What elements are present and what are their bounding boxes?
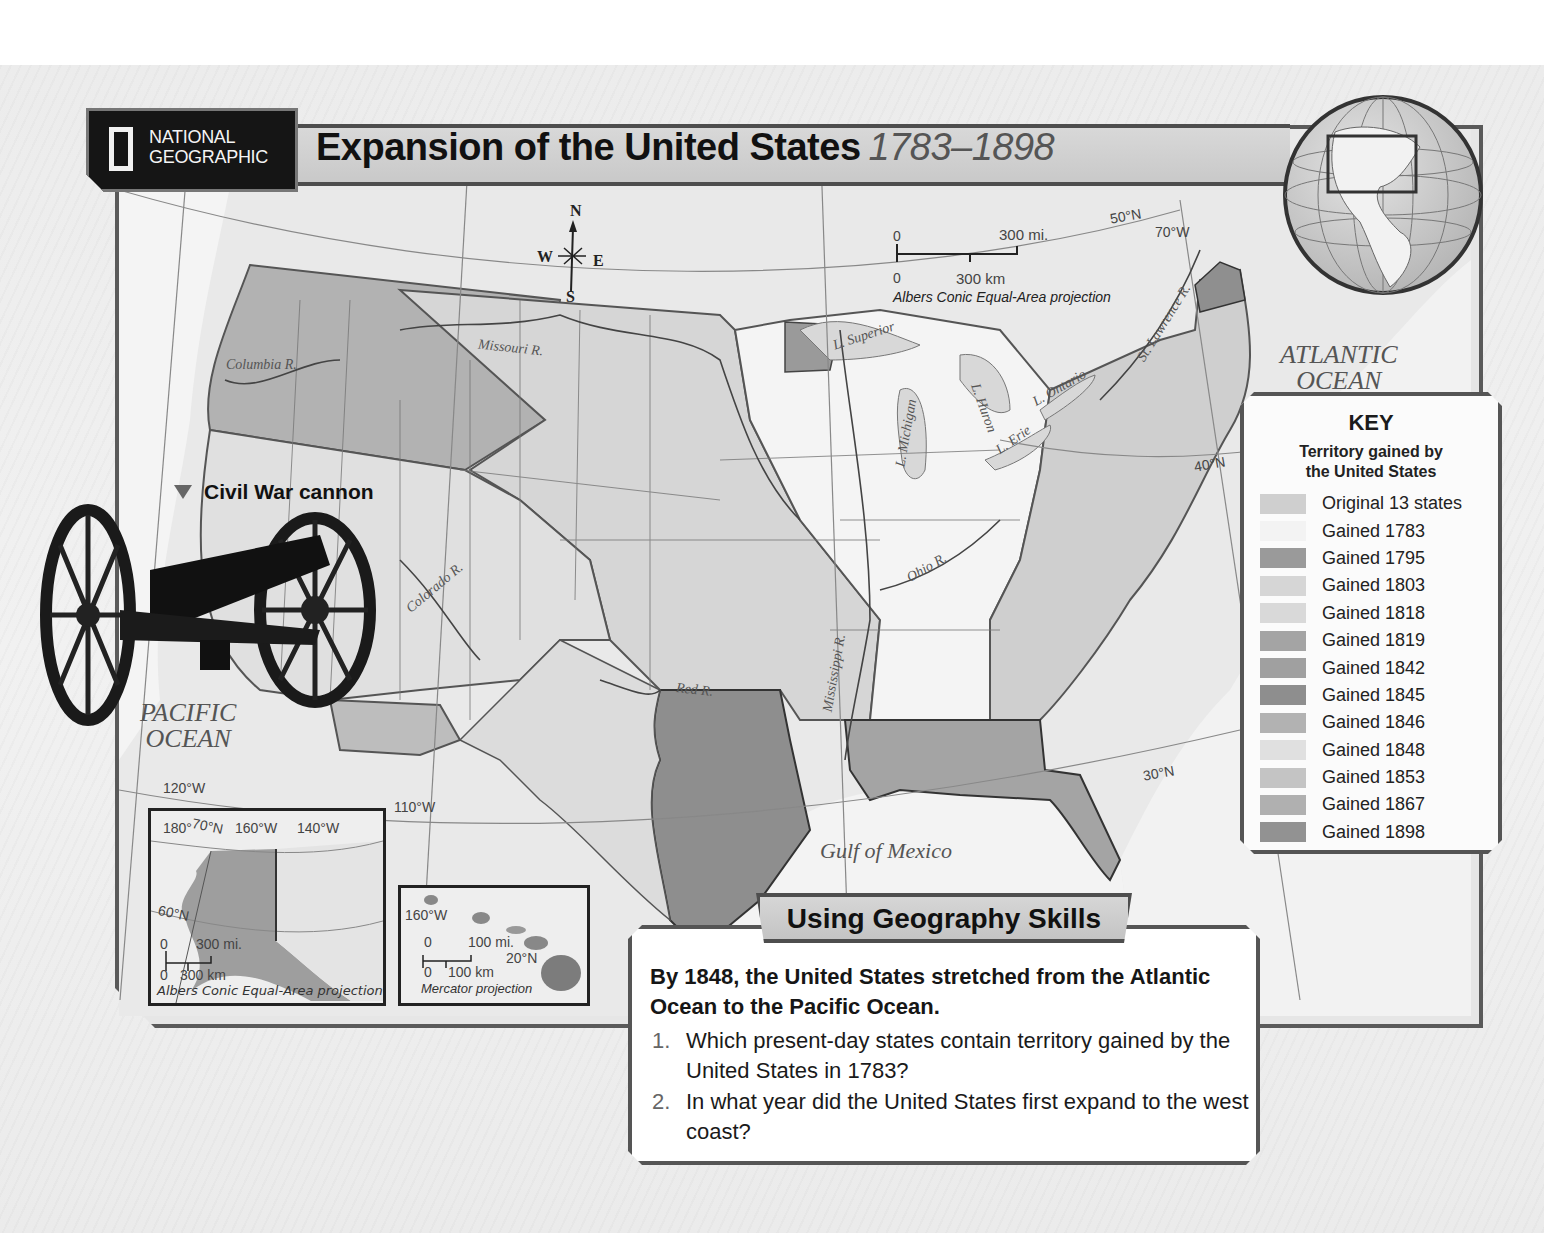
- key-item: Gained 1898: [1244, 819, 1498, 846]
- color-swatch: [1260, 494, 1306, 514]
- inset-alaska-mi-label: 300 mi.: [196, 936, 242, 952]
- lon-120-label: 120°W: [163, 780, 205, 796]
- color-swatch: [1260, 658, 1306, 678]
- inset-alaska-lon-140: 140°W: [297, 820, 339, 836]
- key-item: Gained 1818: [1244, 600, 1498, 627]
- inset-hawaii-mi-zero: 0: [424, 934, 432, 950]
- key-item: Gained 1842: [1244, 654, 1498, 681]
- scale-mi-label: 300 mi.: [999, 226, 1048, 243]
- key-item: Gained 1845: [1244, 682, 1498, 709]
- key-item: Gained 1795: [1244, 545, 1498, 572]
- civil-war-cannon-photo: [40, 500, 385, 735]
- key-item: Gained 1819: [1244, 627, 1498, 654]
- atlantic-ocean-label: ATLANTIC OCEAN: [1280, 342, 1398, 394]
- key-item: Gained 1848: [1244, 737, 1498, 764]
- color-swatch: [1260, 795, 1306, 815]
- inset-alaska-lon-180: 180°: [163, 820, 192, 836]
- lon-110-label: 110°W: [394, 799, 435, 815]
- inset-alaska-lon-160: 160°W: [235, 820, 277, 836]
- compass-e: E: [593, 252, 604, 270]
- key-item: Gained 1803: [1244, 572, 1498, 599]
- scale-projection: Albers Conic Equal-Area projection: [893, 289, 1111, 305]
- scale-mi-zero: 0: [893, 228, 901, 244]
- key-item: Original 13 states: [1244, 490, 1498, 517]
- publisher-name: NATIONAL GEOGRAPHIC: [149, 127, 268, 167]
- yellow-border-icon: [109, 127, 133, 171]
- scale-km-label: 300 km: [956, 270, 1005, 287]
- columbia-river-label: Columbia R.: [226, 357, 297, 373]
- inset-alaska-projection: Albers Conic Equal-Area projection: [157, 983, 383, 998]
- inset-alaska-km-label: 300 km: [180, 967, 226, 983]
- national-geographic-logo: NATIONAL GEOGRAPHIC: [86, 108, 298, 192]
- inset-hawaii-km-zero: 0: [424, 964, 432, 980]
- color-swatch: [1260, 548, 1306, 568]
- color-swatch: [1260, 822, 1306, 842]
- color-swatch: [1260, 740, 1306, 760]
- geography-skills-tab: Using Geography Skills: [756, 893, 1132, 943]
- pointer-triangle-icon: [174, 485, 192, 499]
- scale-bar: [893, 244, 1023, 264]
- inset-hawaii-lat-20: 20°N: [506, 950, 537, 966]
- color-swatch: [1260, 685, 1306, 705]
- color-swatch: [1260, 576, 1306, 596]
- inset-hawaii-mi-label: 100 mi.: [468, 934, 514, 950]
- key-item: Gained 1853: [1244, 764, 1498, 791]
- inset-alaska-km-zero: 0: [160, 967, 168, 983]
- compass-arrow-icon: [550, 218, 594, 294]
- key-item: Gained 1867: [1244, 791, 1498, 818]
- map-title: Expansion of the United States1783–1898: [316, 126, 1054, 169]
- inset-hawaii-lon-160: 160°W: [405, 907, 447, 923]
- locator-globe-icon: [1280, 92, 1486, 298]
- gulf-of-mexico-label: Gulf of Mexico: [820, 838, 952, 864]
- color-swatch: [1260, 631, 1306, 651]
- lon-70-label: 70°W: [1155, 224, 1189, 240]
- skills-lead-text: By 1848, the United States stretched fro…: [650, 962, 1250, 1022]
- map-years: 1783–1898: [869, 126, 1055, 168]
- key-subtitle: Territory gained by the United States: [1244, 442, 1498, 482]
- inset-hawaii-km-label: 100 km: [448, 964, 494, 980]
- color-swatch: [1260, 521, 1306, 541]
- key-item: Gained 1783: [1244, 517, 1498, 544]
- color-swatch: [1260, 603, 1306, 623]
- map-key: KEY Territory gained by the United State…: [1240, 392, 1502, 854]
- geography-skills-title: Using Geography Skills: [760, 903, 1128, 935]
- scale-km-zero: 0: [893, 270, 901, 286]
- inset-hawaii-projection: Mercator projection: [421, 981, 532, 996]
- question-2: 2. In what year did the United States fi…: [652, 1087, 1252, 1147]
- color-swatch: [1260, 713, 1306, 733]
- cannon-caption: Civil War cannon: [204, 480, 374, 504]
- key-list: Original 13 states Gained 1783 Gained 17…: [1244, 490, 1498, 846]
- key-item: Gained 1846: [1244, 709, 1498, 736]
- question-1: 1. Which present-day states contain terr…: [652, 1026, 1252, 1086]
- color-swatch: [1260, 768, 1306, 788]
- inset-alaska-mi-zero: 0: [160, 936, 168, 952]
- key-title: KEY: [1244, 410, 1498, 436]
